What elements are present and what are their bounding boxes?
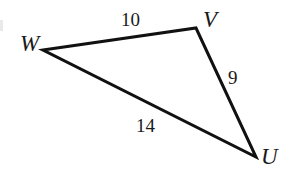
edge-scan-artifact <box>0 20 3 31</box>
vertex-label-u: U <box>261 145 278 168</box>
vertex-label-v: V <box>203 8 217 31</box>
side-length-label-wu: 14 <box>136 116 155 135</box>
vertex-label-w: W <box>20 32 39 55</box>
side-length-label-vu: 9 <box>228 68 238 87</box>
geometry-figure: W V U 10 9 14 <box>0 0 283 174</box>
triangle-outline <box>0 0 283 174</box>
triangle-shape <box>43 28 256 157</box>
side-length-label-wv: 10 <box>121 10 140 29</box>
